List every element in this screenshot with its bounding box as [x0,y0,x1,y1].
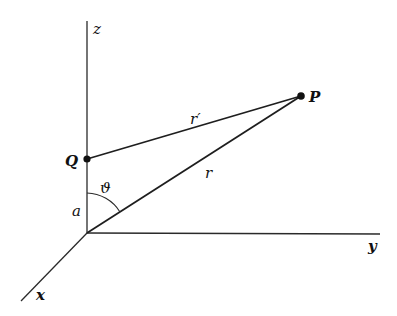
x-axis-label: x [35,286,46,304]
y-axis-label: y [367,237,378,255]
point-q-label: Q [65,152,78,170]
segment-r-prime-label: r′ [190,110,201,128]
x-axis [21,233,87,301]
angle-theta-label: ϑ [100,179,111,197]
diagram-canvas: z y x P Q r′ r a ϑ [0,0,397,316]
point-p [297,92,305,100]
point-p-label: P [308,88,321,106]
point-q [83,155,90,162]
segment-a-label: a [72,202,81,220]
segment-r-label: r [205,164,213,182]
z-axis-label: z [92,20,101,38]
y-axis [87,233,380,234]
